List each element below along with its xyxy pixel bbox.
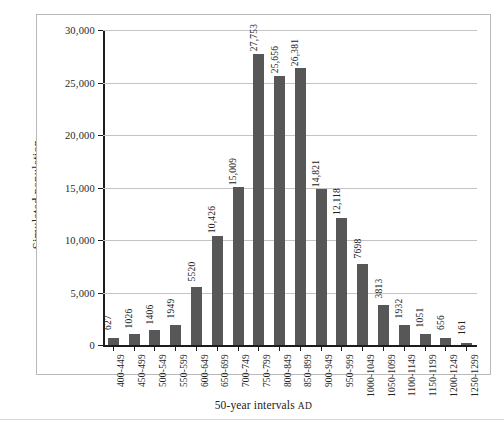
- x-axis-labels-group: 400-449450-499500-549550-599600-649650-6…: [103, 352, 477, 398]
- bar-value-label: 14,821: [312, 160, 322, 187]
- x-label-slot: 500-549: [145, 352, 166, 398]
- bar-value-label: 1949: [166, 299, 176, 319]
- x-label-slot: 850-899: [290, 352, 311, 398]
- bar-value-label: 1026: [125, 308, 135, 328]
- bar-value-label: 27,753: [249, 24, 259, 51]
- bar-slot: 25,656: [269, 30, 290, 345]
- x-label-slot: 450-499: [124, 352, 145, 398]
- x-label-slot: 1100-1149: [394, 352, 415, 398]
- bars-group: 627102614061949552010,42615,00927,75325,…: [103, 30, 477, 345]
- bar-slot: 10,426: [207, 30, 228, 345]
- bar-value-label: 5520: [187, 261, 197, 281]
- x-tick-slot: [290, 345, 311, 351]
- bar: 5520: [191, 287, 202, 345]
- bar: 10,426: [212, 236, 223, 345]
- bar: 1949: [170, 325, 181, 345]
- bar-slot: 3813: [373, 30, 394, 345]
- x-axis-title-main: 50-year intervals: [215, 399, 295, 411]
- bar-slot: 1026: [124, 30, 145, 345]
- bar: 1932: [399, 325, 410, 345]
- x-tick-slot: [436, 345, 457, 351]
- x-tick-slot: [415, 345, 436, 351]
- x-label-slot: 700-749: [228, 352, 249, 398]
- x-tick-slot: [269, 345, 290, 351]
- caption-divider: [0, 419, 504, 420]
- x-tick-slot: [165, 345, 186, 351]
- x-tick-slot: [248, 345, 269, 351]
- x-tick-slot: [373, 345, 394, 351]
- x-tick-mark: [404, 345, 405, 351]
- x-tick-mark: [196, 345, 197, 351]
- x-tick-mark: [341, 345, 342, 351]
- bar-value-label: 15,009: [229, 158, 239, 185]
- x-tick-mark: [154, 345, 155, 351]
- x-tick-mark: [425, 345, 426, 351]
- x-tick-slot: [186, 345, 207, 351]
- x-label-slot: 1200-1249: [436, 352, 457, 398]
- x-tick-slot: [103, 345, 124, 351]
- x-label-slot: 1050-1099: [373, 352, 394, 398]
- bar-value-label: 1932: [395, 299, 405, 319]
- bar-slot: 7698: [352, 30, 373, 345]
- x-tick-slot: [332, 345, 353, 351]
- x-tick-slot: [456, 345, 477, 351]
- y-tick-label: 20,000: [65, 130, 95, 141]
- y-tick-label: 25,000: [65, 77, 95, 88]
- bar-slot: 5520: [186, 30, 207, 345]
- bar-value-label: 627: [104, 315, 114, 330]
- x-tick-mark: [383, 345, 384, 351]
- bar-value-label: 1051: [416, 308, 426, 328]
- x-tick-slot: [311, 345, 332, 351]
- bar: 15,009: [233, 187, 244, 345]
- bar: 1026: [129, 334, 140, 345]
- bar: 656: [440, 338, 451, 345]
- y-tick-label: 0: [90, 340, 95, 351]
- bar-value-label: 10,426: [208, 206, 218, 233]
- bar-slot: 1932: [394, 30, 415, 345]
- bar-value-label: 7698: [353, 238, 363, 258]
- x-tick-slot: [394, 345, 415, 351]
- x-tick-mark: [134, 345, 135, 351]
- bar-value-label: 25,656: [270, 46, 280, 73]
- bar-value-label: 1406: [145, 304, 155, 324]
- figure-container: Simulated population 30,00025,00020,0001…: [0, 0, 504, 440]
- x-tick-mark: [258, 345, 259, 351]
- x-label-slot: 900-949: [311, 352, 332, 398]
- y-tick-label: 10,000: [65, 235, 95, 246]
- bar: 14,821: [316, 189, 327, 345]
- bar-slot: 161: [456, 30, 477, 345]
- x-tick-mark: [362, 345, 363, 351]
- x-tick-mark: [279, 345, 280, 351]
- y-tick-label: 15,000: [65, 182, 95, 193]
- x-tick-mark: [113, 345, 114, 351]
- x-tick-slot: [145, 345, 166, 351]
- x-label-slot: 750-799: [248, 352, 269, 398]
- x-tick-mark: [300, 345, 301, 351]
- x-label-slot: 600-649: [186, 352, 207, 398]
- bar-slot: 1406: [145, 30, 166, 345]
- x-tick-slot: [207, 345, 228, 351]
- bar: 1051: [420, 334, 431, 345]
- bar-slot: 12,118: [332, 30, 353, 345]
- y-tick-label: 5,000: [70, 287, 95, 298]
- bar-value-label: 161: [457, 320, 467, 335]
- x-label-slot: 400-449: [103, 352, 124, 398]
- bar-slot: 27,753: [248, 30, 269, 345]
- bar-value-label: 12,118: [332, 188, 342, 215]
- bar-slot: 14,821: [311, 30, 332, 345]
- bar: 12,118: [336, 218, 347, 345]
- x-tick-slot: [124, 345, 145, 351]
- x-label-slot: 800-849: [269, 352, 290, 398]
- x-axis-title: 50-year intervals AD: [36, 399, 491, 411]
- x-axis-tick-label: 1250-1299: [471, 354, 481, 397]
- x-tick-mark: [445, 345, 446, 351]
- x-label-slot: 1150-1199: [415, 352, 436, 398]
- bar: 25,656: [274, 76, 285, 345]
- bar: 1406: [149, 330, 160, 345]
- bar-slot: 656: [436, 30, 457, 345]
- x-axis-title-era: AD: [298, 401, 313, 411]
- x-tick-mark: [321, 345, 322, 351]
- x-label-slot: 950-999: [332, 352, 353, 398]
- bar-value-label: 26,381: [291, 38, 301, 65]
- plot-area: 30,00025,00020,00015,00010,0005,0000 627…: [103, 30, 477, 345]
